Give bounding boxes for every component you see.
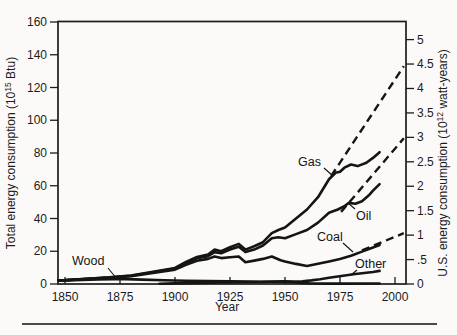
y-left-tick-label: 60 [34,179,48,193]
curve-coal-projection [362,233,404,250]
page-divider-rule [22,323,437,325]
curve-projection-high [331,66,404,176]
y-right-tick-label: 2.5 [417,155,434,169]
x-tick-label: 2000 [382,290,409,304]
y-right-tick-label: 4 [417,81,424,95]
y-left-tick-label: 0 [40,277,47,291]
x-tick-label: 1975 [327,290,354,304]
right-axis-title: U.S. energy consumption (1012 watt-years… [435,49,450,277]
y-right-tick-label: 4.5 [417,57,434,71]
y-right-tick-label: 1.5 [417,204,434,218]
plot-border [58,22,406,285]
x-tick-label: 1900 [162,290,189,304]
curve-other [160,271,380,284]
curve-label-other: Other [355,257,386,271]
y-left-tick-label: 140 [27,48,47,62]
curve-label-coal: Coal [317,230,343,244]
y-left-tick-label: 120 [27,81,47,95]
y-right-tick-label: 0 [417,277,424,291]
y-left-tick-label: 40 [34,212,48,226]
curve-label-oil: Oil [356,209,371,223]
y-right-tick-label: 3.5 [417,106,434,120]
y-right-tick-label: 3 [417,130,424,144]
curve-label-leader-coal [343,243,353,252]
x-tick-label: 1850 [52,290,79,304]
y-right-tick-label: 2 [417,179,424,193]
x-tick-label: 1875 [107,290,134,304]
y-left-tick-label: 20 [34,244,48,258]
energy-consumption-chart: 0204060801001201401600.511.522.533.544.5… [0,0,457,335]
y-right-tick-label: 5 [417,33,424,47]
curve-projection-mid [341,138,404,212]
x-tick-label: 1950 [272,290,299,304]
curve-label-wood: Wood [72,254,104,268]
y-left-tick-label: 160 [27,15,47,29]
y-left-tick-label: 80 [34,146,48,160]
x-axis-title: Year [215,300,239,314]
y-right-tick-label: 1 [417,228,424,242]
curve-label-gas: Gas [298,155,321,169]
textbook-figure-page: 0204060801001201401600.511.522.533.544.5… [0,0,457,335]
left-axis-title: Total energy consumption (1015 Btu) [3,57,18,249]
curve-label-leader-gas [324,168,333,176]
y-right-tick-label: .5 [417,253,427,267]
y-left-tick-label: 100 [27,113,47,127]
